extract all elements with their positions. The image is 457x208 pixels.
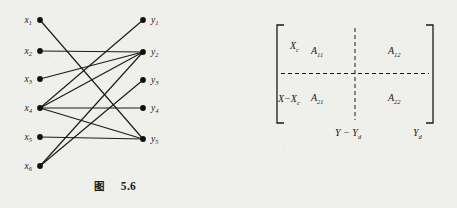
graph-node-y4[interactable]	[140, 105, 146, 111]
graph-node-x2[interactable]	[37, 48, 43, 54]
graph-node-label-x6: x6	[24, 161, 33, 172]
matrix-row-label-1-sub: c	[297, 99, 300, 106]
graph-node-y3[interactable]	[140, 77, 146, 83]
graph-node-label-sub-y2: 2	[155, 51, 159, 58]
graph-edge-x4-y2	[40, 52, 143, 108]
matrix-col-label-0-sub: d	[358, 133, 361, 140]
matrix-cell-1-0: A21	[311, 92, 324, 105]
matrix-cell-1-1-sub: 22	[394, 98, 401, 105]
graph-node-label-y3: y3	[150, 75, 159, 86]
graph-node-label-x2: x2	[24, 46, 33, 57]
graph-node-label-sub-x2: 2	[29, 50, 33, 57]
graph-node-label-y4: y4	[150, 103, 159, 114]
graph-node-x4[interactable]	[37, 105, 43, 111]
graph-node-label-sub-x5: 5	[29, 136, 33, 143]
graph-node-label-sub-y5: 5	[155, 138, 159, 145]
block-matrix-canvas	[230, 0, 457, 208]
graph-edge-layer	[40, 20, 143, 166]
graph-edge-x5-y5	[40, 137, 143, 139]
matrix-col-label-1-sub: d	[419, 133, 422, 140]
graph-node-label-sub-x6: 6	[29, 165, 33, 172]
page-root: x1x2x3x4x5x6y1y2y3y4y5 图 5.6 Xc X−Xc	[0, 0, 457, 208]
matrix-row-label-0-sub: c	[296, 46, 299, 53]
graph-node-label-x5: x5	[24, 132, 33, 143]
graph-node-label-x4: x4	[24, 103, 33, 114]
graph-node-label-x3: x3	[24, 74, 33, 85]
graph-node-y1[interactable]	[140, 17, 146, 23]
matrix-col-label-0-base: Y − Y	[335, 127, 358, 138]
matrix-cell-1-1: A22	[388, 92, 401, 105]
graph-node-label-sub-y3: 3	[154, 79, 159, 86]
figure-5-6: x1x2x3x4x5x6y1y2y3y4y5 图 5.6	[0, 0, 230, 208]
graph-node-x1[interactable]	[37, 17, 43, 23]
graph-node-y2[interactable]	[140, 49, 146, 55]
matrix-cell-0-0: A11	[311, 45, 323, 58]
graph-node-label-sub-x1: 1	[29, 19, 32, 26]
bipartite-graph-canvas: x1x2x3x4x5x6y1y2y3y4y5	[0, 0, 230, 208]
graph-node-y5[interactable]	[140, 136, 146, 142]
graph-node-label-y5: y5	[150, 134, 159, 145]
matrix-cell-0-1-sub: 12	[394, 51, 401, 58]
matrix-row-label-0: Xc	[290, 40, 299, 53]
graph-node-label-sub-y1: 1	[155, 19, 158, 26]
matrix-row-label-1-base: X−X	[278, 93, 297, 104]
graph-node-label-sub-x4: 4	[29, 107, 33, 114]
graph-edge-x4-y1	[40, 20, 143, 108]
figure-5-6-caption: 图 5.6	[0, 178, 230, 193]
figure-5-6-caption-number: 5.6	[121, 180, 136, 192]
graph-node-label-x1: x1	[24, 15, 32, 26]
graph-edge-x6-y3	[40, 80, 143, 166]
matrix-cell-0-0-sub: 11	[317, 51, 323, 58]
matrix-cell-1-0-sub: 21	[317, 98, 324, 105]
graph-edge-x3-y2	[40, 52, 143, 79]
matrix-col-label-1: Yd	[413, 127, 422, 140]
graph-label-layer: x1x2x3x4x5x6y1y2y3y4y5	[24, 15, 160, 172]
graph-node-label-sub-x3: 3	[28, 78, 33, 85]
graph-node-label-y2: y2	[150, 47, 159, 58]
graph-node-layer	[37, 17, 146, 169]
matrix-cell-0-1: A12	[388, 45, 401, 58]
graph-node-x3[interactable]	[37, 76, 43, 82]
matrix-row-label-1: X−Xc	[278, 93, 300, 106]
figure-5-7: Xc X−Xc Y − Yd Yd A11 A12 A21 A22 图 5.7	[230, 0, 457, 208]
figure-5-6-caption-cn: 图	[94, 180, 105, 192]
graph-node-label-y1: y1	[150, 15, 158, 26]
graph-edge-x6-y2	[40, 52, 143, 166]
matrix-right-bracket	[426, 25, 433, 123]
graph-node-x6[interactable]	[37, 163, 43, 169]
graph-edge-x2-y2	[40, 51, 143, 52]
graph-node-x5[interactable]	[37, 134, 43, 140]
graph-node-label-sub-y4: 4	[155, 107, 159, 114]
matrix-col-label-0: Y − Yd	[335, 127, 361, 140]
